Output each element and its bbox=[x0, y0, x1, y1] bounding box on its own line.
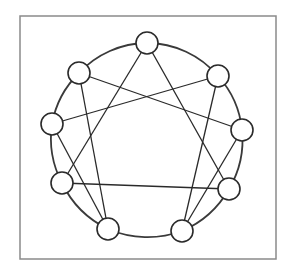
diagram-nodes bbox=[41, 32, 253, 242]
node-right bbox=[231, 119, 253, 141]
edge-upper-left-bottom-left bbox=[79, 73, 108, 229]
edge-upper-right-bottom-right bbox=[182, 76, 218, 231]
node-upper-left bbox=[68, 62, 90, 84]
node-left bbox=[41, 113, 63, 135]
node-bottom-right bbox=[171, 220, 193, 242]
node-lower-left bbox=[51, 172, 73, 194]
enneagram-diagram bbox=[0, 0, 281, 269]
node-bottom-left bbox=[97, 218, 119, 240]
node-top bbox=[136, 32, 158, 54]
node-upper-right bbox=[207, 65, 229, 87]
node-lower-right bbox=[218, 178, 240, 200]
edge-lower-left-lower-right bbox=[62, 183, 229, 189]
